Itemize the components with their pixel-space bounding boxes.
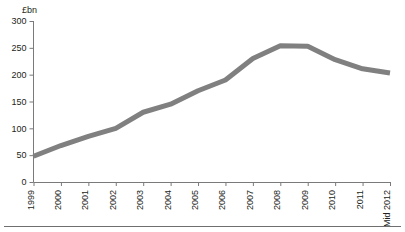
y-tick-label: 250 <box>11 43 26 53</box>
x-tick-label: 2007 <box>245 190 255 210</box>
x-tick-label: 2004 <box>163 190 173 210</box>
x-tick-label: 2001 <box>80 190 90 210</box>
line-chart: £bn 050100150200250300 19992000200120022… <box>0 0 405 232</box>
x-tick-label: 2010 <box>327 190 337 210</box>
y-tick-label: 100 <box>11 124 26 134</box>
x-tick-label: 2003 <box>135 190 145 210</box>
x-tick-label: 2006 <box>217 190 227 210</box>
x-tick-label: 2002 <box>108 190 118 210</box>
y-tick-label: 300 <box>11 16 26 26</box>
y-tick-label: 50 <box>16 150 26 160</box>
x-tick-label: 2005 <box>190 190 200 210</box>
y-axis-label: £bn <box>22 5 37 15</box>
chart-container: £bn 050100150200250300 19992000200120022… <box>0 0 405 232</box>
y-tick-label: 200 <box>11 70 26 80</box>
x-tick-label: 2009 <box>300 190 310 210</box>
x-tick-label: 2011 <box>355 190 365 209</box>
x-tick-label: Mid 2012 <box>382 190 392 227</box>
x-tick-label: 1999 <box>26 190 36 210</box>
y-tick-label: 150 <box>11 97 26 107</box>
x-tick-label: 2008 <box>272 190 282 210</box>
x-tick-label: 2000 <box>53 190 63 210</box>
y-tick-label: 0 <box>21 177 26 187</box>
